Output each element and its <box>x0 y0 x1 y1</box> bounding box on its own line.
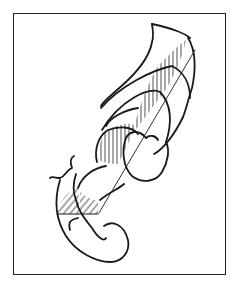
hatched-region-mid <box>98 124 136 164</box>
figure-caption <box>14 281 229 286</box>
hatched-region-lower2 <box>80 192 98 214</box>
hatched-region-top <box>132 40 186 134</box>
scroll-ornament-illustration <box>0 0 241 286</box>
